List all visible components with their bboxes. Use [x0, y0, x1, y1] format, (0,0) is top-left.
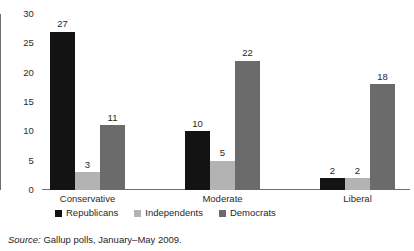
bar-value-label: 11 [100, 113, 125, 123]
bar-group-liberal: 2218 [320, 14, 395, 190]
bar-rect[interactable] [320, 178, 345, 190]
legend-swatch-independents-icon [134, 210, 141, 217]
bar-rect[interactable] [185, 131, 210, 190]
bar-liberal-dem[interactable]: 18 [370, 14, 395, 190]
bar-group-conservative: 27311 [50, 14, 125, 190]
y-axis-line [0, 14, 1, 190]
bar-value-label: 27 [50, 19, 75, 29]
chart-figure: 302520151050 27311105222218 Conservative… [0, 0, 414, 251]
legend-swatch-republicans-icon [55, 210, 62, 217]
bar-rect[interactable] [345, 178, 370, 190]
bar-conservative-dem[interactable]: 11 [100, 14, 125, 190]
chart-legend: Republicans Independents Democrats [55, 208, 276, 218]
source-text: Gallup polls, January–May 2009. [41, 234, 182, 245]
bar-row: 27311 [50, 14, 125, 190]
bar-rect[interactable] [370, 84, 395, 190]
legend-item-republicans: Republicans [55, 208, 118, 218]
bar-conservative-ind[interactable]: 3 [75, 14, 100, 190]
bar-value-label: 18 [370, 72, 395, 82]
plot-area: 27311105222218 [42, 14, 410, 190]
y-tick-15: 15 [8, 97, 34, 107]
bar-liberal-rep[interactable]: 2 [320, 14, 345, 190]
source-note: Source: Gallup polls, January–May 2009. [8, 234, 182, 245]
bar-group-moderate: 10522 [185, 14, 260, 190]
legend-swatch-democrats-icon [219, 210, 226, 217]
bar-rect[interactable] [100, 125, 125, 190]
y-tick-10: 10 [8, 126, 34, 136]
bar-row: 2218 [320, 14, 395, 190]
bar-row: 10522 [185, 14, 260, 190]
category-label-conservative: Conservative [38, 194, 138, 204]
category-label-liberal: Liberal [308, 194, 408, 204]
legend-label-republicans: Republicans [66, 208, 118, 218]
y-tick-5: 5 [8, 156, 34, 166]
bar-rect[interactable] [235, 61, 260, 190]
legend-item-independents: Independents [134, 208, 203, 218]
bar-liberal-ind[interactable]: 2 [345, 14, 370, 190]
bar-moderate-dem[interactable]: 22 [235, 14, 260, 190]
category-label-moderate: Moderate [173, 194, 273, 204]
y-tick-0: 0 [8, 185, 34, 195]
bar-rect[interactable] [50, 32, 75, 190]
bar-value-label: 2 [345, 166, 370, 176]
bar-conservative-rep[interactable]: 27 [50, 14, 75, 190]
y-tick-20: 20 [8, 68, 34, 78]
bar-value-label: 2 [320, 166, 345, 176]
bar-rect[interactable] [210, 161, 235, 190]
source-prefix: Source: [8, 234, 41, 245]
bar-rect[interactable] [75, 172, 100, 190]
y-tick-25: 25 [8, 38, 34, 48]
bar-value-label: 5 [210, 148, 235, 158]
bar-moderate-ind[interactable]: 5 [210, 14, 235, 190]
legend-label-independents: Independents [145, 208, 203, 218]
bar-value-label: 22 [235, 48, 260, 58]
bar-moderate-rep[interactable]: 10 [185, 14, 210, 190]
y-tick-30: 30 [8, 9, 34, 19]
legend-item-democrats: Democrats [219, 208, 276, 218]
bar-value-label: 10 [185, 119, 210, 129]
legend-label-democrats: Democrats [230, 208, 276, 218]
bar-value-label: 3 [75, 160, 100, 170]
